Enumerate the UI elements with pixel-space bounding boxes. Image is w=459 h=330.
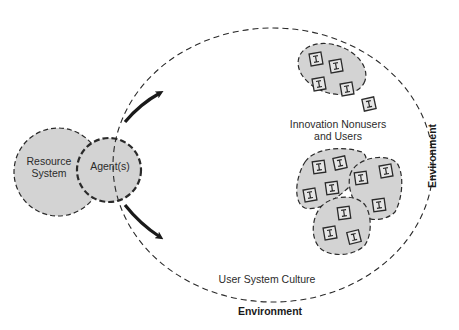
innovation-unit-loose-icon <box>362 97 376 111</box>
resource-system-label: Resource System <box>19 155 79 179</box>
environment-right-label: Environment <box>426 116 438 196</box>
top-cluster <box>291 34 373 103</box>
innovation-unit-icon <box>337 206 351 220</box>
innovation-unit-icon <box>309 52 323 66</box>
innovation-unit-icon <box>347 230 362 245</box>
resource-system-label-line1: Resource <box>19 155 79 167</box>
innovation-unit-icon <box>333 156 347 170</box>
arrow-up-icon <box>125 93 160 122</box>
arrow-down-icon <box>125 205 160 237</box>
agents-label: Agent(s) <box>82 160 138 172</box>
resource-system-label-line2: System <box>19 167 79 179</box>
innovation-users-label-line2: and Users <box>283 130 393 142</box>
user-system-culture-label: User System Culture <box>212 273 322 285</box>
innovation-unit-icon <box>323 226 337 240</box>
innovation-unit-icon <box>312 160 326 174</box>
innovation-unit-icon <box>329 59 343 73</box>
innovation-users-label-line1: Innovation Nonusers <box>283 118 393 130</box>
bottom-cluster <box>313 197 370 254</box>
innovation-users-label: Innovation Nonusers and Users <box>283 118 393 142</box>
innovation-unit-icon <box>372 198 386 212</box>
innovation-unit-icon <box>325 181 339 195</box>
innovation-unit-icon <box>340 82 354 96</box>
innovation-unit-icon <box>354 171 368 185</box>
innovation-unit-icon <box>379 164 393 178</box>
environment-bottom-label: Environment <box>230 305 310 317</box>
innovation-unit-icon <box>303 188 317 202</box>
innovation-unit-icon <box>312 77 326 91</box>
